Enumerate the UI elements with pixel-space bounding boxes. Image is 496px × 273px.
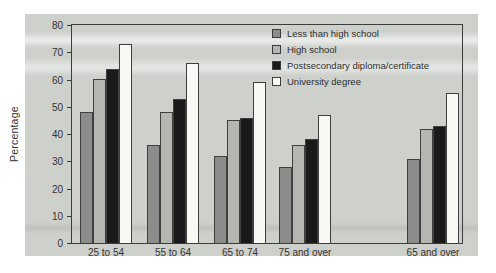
bar-1-1 <box>80 112 93 243</box>
y-tick-label: 40 <box>33 129 63 140</box>
bar-4-1 <box>279 167 292 243</box>
legend-item: High school <box>272 41 429 57</box>
bar-2-3 <box>173 99 186 243</box>
y-tick-label: 20 <box>33 184 63 195</box>
y-tick-label: 30 <box>33 156 63 167</box>
bar-5-3 <box>433 126 446 243</box>
legend: Less than high schoolHigh schoolPostseco… <box>272 25 429 89</box>
legend-swatch-icon <box>272 29 281 38</box>
bar-4-2 <box>292 145 305 243</box>
y-tick-label: 50 <box>33 102 63 113</box>
bar-5-2 <box>420 129 433 243</box>
y-tick-label: 70 <box>33 47 63 58</box>
legend-item: Postsecondary diploma/certificate <box>272 57 429 73</box>
x-tick-label: 75 and over <box>260 247 350 258</box>
legend-label: High school <box>287 44 337 55</box>
legend-swatch-icon <box>272 45 281 54</box>
bar-3-3 <box>240 118 253 243</box>
bar-2-4 <box>186 63 199 243</box>
bar-1-2 <box>93 79 106 243</box>
y-tick-label: 60 <box>33 75 63 86</box>
legend-item: Less than high school <box>272 25 429 41</box>
y-tick-label: 10 <box>33 211 63 222</box>
bar-1-4 <box>119 44 132 243</box>
legend-swatch-icon <box>272 77 281 86</box>
bar-3-1 <box>214 156 227 243</box>
bar-4-4 <box>318 115 331 243</box>
bar-3-2 <box>227 120 240 243</box>
legend-label: University degree <box>287 76 361 87</box>
y-axis: 01020304050607080 <box>0 24 71 244</box>
bar-3-4 <box>253 82 266 243</box>
legend-swatch-icon <box>272 61 281 70</box>
y-tick-label: 0 <box>33 238 63 249</box>
legend-label: Postsecondary diploma/certificate <box>287 60 429 71</box>
legend-item: University degree <box>272 73 429 89</box>
bar-5-4 <box>446 93 459 243</box>
bar-2-1 <box>147 145 160 243</box>
bar-1-3 <box>106 69 119 243</box>
bar-5-1 <box>407 159 420 243</box>
bar-2-2 <box>160 112 173 243</box>
y-tick-label: 80 <box>33 20 63 31</box>
figure: Percentage 01020304050607080 25 to 5455 … <box>0 0 496 273</box>
legend-label: Less than high school <box>287 28 379 39</box>
x-tick-label: 65 and over <box>388 247 478 258</box>
bar-4-3 <box>305 139 318 243</box>
